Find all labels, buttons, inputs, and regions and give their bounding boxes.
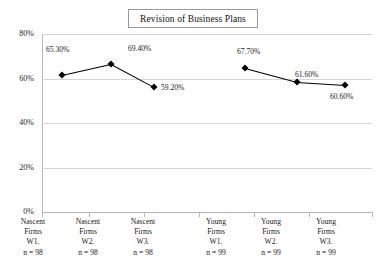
- y-axis-tick-label: 60%: [19, 75, 34, 83]
- category-line: W3.: [297, 237, 355, 247]
- category-line: Firms: [59, 227, 117, 237]
- category-line: W2.: [59, 237, 117, 247]
- category-line: W3.: [114, 237, 172, 247]
- category-line: Firms: [242, 227, 300, 237]
- gridline-60: [42, 79, 372, 80]
- category-line: Nascent: [59, 217, 117, 227]
- y-axis-tick-label: 0%: [23, 208, 34, 216]
- data-point-label: 69.40%: [128, 45, 151, 53]
- x-axis-category-label: Young Firms W1. n = 99: [187, 217, 245, 258]
- plot-area: [42, 34, 372, 212]
- data-point-label: 59.20%: [161, 84, 184, 92]
- category-line: Firms: [187, 227, 245, 237]
- category-sample-size: n = 99: [242, 248, 300, 258]
- chart-container: Revision of Business Plans 80% 60% 40% 2…: [0, 0, 382, 278]
- category-line: Nascent: [114, 217, 172, 227]
- y-axis-labels: 80% 60% 40% 20% 0%: [0, 34, 38, 212]
- category-line: W1.: [187, 237, 245, 247]
- x-axis-category-label: Nascent Firms W3. n = 98: [114, 217, 172, 258]
- data-point-label: 65.30%: [46, 46, 69, 54]
- data-point-label: 60.60%: [330, 93, 353, 101]
- x-axis-category-label: Young Firms W3. n = 99: [297, 217, 355, 258]
- category-line: Firms: [114, 227, 172, 237]
- category-line: Young: [187, 217, 245, 227]
- category-line: Young: [297, 217, 355, 227]
- chart-title: Revision of Business Plans: [128, 9, 258, 28]
- category-sample-size: n = 99: [297, 248, 355, 258]
- data-point-label: 61.60%: [295, 71, 318, 79]
- category-sample-size: n = 98: [4, 248, 62, 258]
- x-axis-category-label: Nascent Firms W1. n = 98: [4, 217, 62, 258]
- category-sample-size: n = 98: [114, 248, 172, 258]
- category-sample-size: n = 99: [187, 248, 245, 258]
- chart-title-text: Revision of Business Plans: [140, 14, 246, 24]
- x-axis-tick: [372, 212, 373, 217]
- category-sample-size: n = 98: [59, 248, 117, 258]
- category-line: Firms: [297, 227, 355, 237]
- category-line: Nascent: [4, 217, 62, 227]
- category-line: W1.: [4, 237, 62, 247]
- y-axis-tick-label: 20%: [19, 164, 34, 172]
- y-axis-tick-label: 80%: [19, 30, 34, 38]
- gridline-80: [42, 34, 372, 35]
- category-line: Firms: [4, 227, 62, 237]
- y-axis-tick-label: 40%: [19, 119, 34, 127]
- x-axis-category-label: Young Firms W2. n = 99: [242, 217, 300, 258]
- x-axis-category-label: Nascent Firms W2. n = 98: [59, 217, 117, 258]
- category-line: Young: [242, 217, 300, 227]
- gridline-40: [42, 123, 372, 124]
- gridline-20: [42, 168, 372, 169]
- data-point-label: 67.70%: [237, 48, 260, 56]
- category-line: W2.: [242, 237, 300, 247]
